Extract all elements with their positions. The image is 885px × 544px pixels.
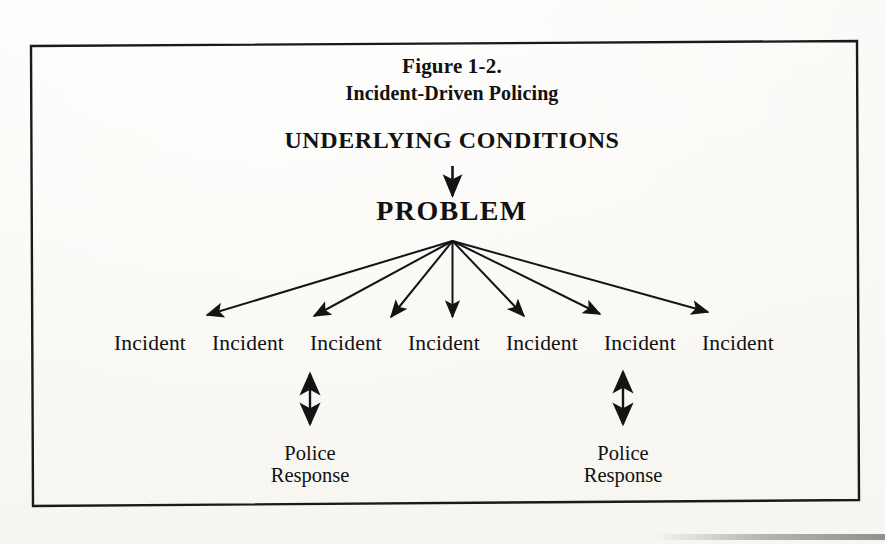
figure-caption-number: Figure 1-2.	[402, 55, 502, 77]
incident-row: Incident Incident Incident Incident Inci…	[114, 331, 774, 356]
edge-problem-to-incident-2	[314, 241, 453, 316]
node-police-response: Police Response	[584, 443, 663, 486]
edge-problem-to-incident-5	[453, 241, 525, 316]
police-response-line2: Response	[271, 465, 350, 487]
node-incident: Incident	[506, 331, 578, 356]
police-response-line1: Police	[584, 443, 663, 465]
node-incident: Incident	[310, 331, 382, 356]
edge-problem-to-incident-7	[453, 241, 709, 312]
node-underlying-conditions: UNDERLYING CONDITIONS	[284, 128, 619, 153]
police-response-line2: Response	[584, 465, 663, 487]
figure-caption-title: Incident-Driven Policing	[346, 83, 559, 104]
node-problem: PROBLEM	[376, 196, 527, 226]
figure-page: Figure 1-2. Incident-Driven Policing UND…	[0, 0, 885, 544]
node-incident: Incident	[408, 331, 480, 356]
node-incident: Incident	[212, 331, 284, 356]
edge-problem-to-incident-3	[391, 241, 453, 317]
edge-problem-to-incident-6	[453, 241, 601, 314]
edge-problem-to-incident-1	[207, 241, 453, 315]
node-incident: Incident	[114, 331, 186, 356]
node-police-response: Police Response	[271, 443, 350, 486]
node-incident: Incident	[702, 331, 774, 356]
police-response-line1: Police	[271, 443, 350, 465]
node-incident: Incident	[604, 331, 676, 356]
